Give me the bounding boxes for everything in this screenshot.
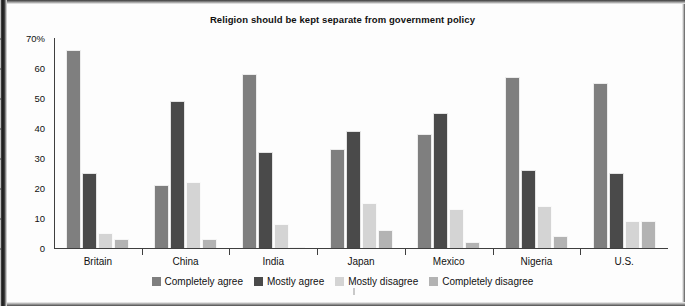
bar[interactable]	[274, 224, 289, 248]
x-axis-category-label: Mexico	[433, 256, 465, 267]
legend-swatch-icon	[335, 277, 344, 286]
chart-legend: Completely agreeMostly agreeMostly disag…	[0, 276, 685, 287]
y-axis-tick-mark	[0, 98, 2, 99]
x-axis-tick-mark	[405, 249, 406, 255]
bar[interactable]	[521, 170, 536, 248]
x-axis-tick-mark	[229, 249, 230, 255]
legend-swatch-icon	[152, 277, 161, 286]
legend-label: Mostly agree	[267, 276, 324, 287]
bar[interactable]	[242, 74, 257, 248]
y-axis-tick-label: 50	[2, 93, 54, 104]
x-axis-tick-mark	[317, 249, 318, 255]
bar[interactable]	[330, 149, 345, 248]
bar[interactable]	[82, 173, 97, 248]
legend-item[interactable]: Completely agree	[152, 276, 243, 287]
x-axis-tick-mark	[493, 249, 494, 255]
bar-group	[502, 77, 570, 248]
x-axis-category-label: Britain	[84, 256, 112, 267]
bar[interactable]	[417, 134, 432, 248]
bar[interactable]	[465, 242, 480, 248]
bar[interactable]	[378, 230, 393, 248]
bar-group	[239, 74, 307, 248]
bar[interactable]	[258, 152, 273, 248]
scan-edge-bottom	[7, 302, 685, 306]
bar[interactable]	[362, 203, 377, 248]
y-axis-tick-label: 40	[2, 123, 54, 134]
y-axis-tick-mark	[0, 158, 2, 159]
legend-item[interactable]: Completely disagree	[429, 276, 533, 287]
y-axis-tick-mark	[0, 128, 2, 129]
bar[interactable]	[593, 83, 608, 248]
y-axis-tick-label: 70%	[2, 33, 54, 44]
y-axis-tick-label: 20	[2, 183, 54, 194]
x-axis-category-label: China	[172, 256, 198, 267]
legend-label: Completely agree	[165, 276, 243, 287]
bar[interactable]	[625, 221, 640, 248]
bar[interactable]	[553, 236, 568, 248]
y-axis-tick-mark	[0, 188, 2, 189]
legend-label: Mostly disagree	[348, 276, 418, 287]
legend-item[interactable]: Mostly disagree	[335, 276, 418, 287]
bar[interactable]	[154, 185, 169, 248]
bar[interactable]	[449, 209, 464, 248]
bar-group	[415, 113, 483, 248]
bar[interactable]	[290, 247, 305, 249]
legend-label: Completely disagree	[442, 276, 533, 287]
bar[interactable]	[186, 182, 201, 248]
scan-smudge	[353, 288, 355, 295]
y-axis-tick-mark	[0, 218, 2, 219]
y-axis-tick-label: 0	[2, 243, 54, 254]
bar[interactable]	[202, 239, 217, 248]
bar-group	[64, 50, 132, 248]
bar-group	[327, 131, 395, 248]
x-axis-category-label: Nigeria	[521, 256, 553, 267]
bar[interactable]	[641, 221, 656, 248]
scan-edge-top	[7, 0, 685, 4]
bar-group	[152, 101, 220, 248]
bar[interactable]	[170, 101, 185, 248]
chart-title: Religion should be kept separate from go…	[0, 14, 685, 25]
x-axis-category-label: U.S.	[614, 256, 633, 267]
bar[interactable]	[505, 77, 520, 248]
y-axis-tick-mark	[0, 68, 2, 69]
x-axis-tick-mark	[142, 249, 143, 255]
bar-group	[590, 83, 658, 248]
bar[interactable]	[609, 173, 624, 248]
x-axis-tick-mark	[580, 249, 581, 255]
bar[interactable]	[346, 131, 361, 248]
y-axis-tick-mark	[0, 248, 2, 249]
chart-page: Religion should be kept separate from go…	[0, 0, 685, 306]
x-axis-category-label: Japan	[347, 256, 374, 267]
y-axis-tick-label: 60	[2, 63, 54, 74]
bar[interactable]	[433, 113, 448, 248]
bar[interactable]	[114, 239, 129, 248]
legend-item[interactable]: Mostly agree	[254, 276, 324, 287]
bar[interactable]	[66, 50, 81, 248]
x-axis-line	[54, 248, 668, 249]
legend-swatch-icon	[254, 277, 263, 286]
plot-area: 70%6050403020100	[54, 38, 668, 248]
y-axis-tick-mark	[0, 38, 2, 39]
x-axis-category-label: India	[262, 256, 284, 267]
bar[interactable]	[537, 206, 552, 248]
y-axis-tick-label: 10	[2, 213, 54, 224]
y-axis-tick-label: 30	[2, 153, 54, 164]
legend-swatch-icon	[429, 277, 438, 286]
bar[interactable]	[98, 233, 113, 248]
